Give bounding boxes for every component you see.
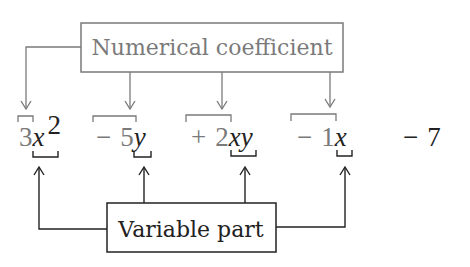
connector-arrow-var4: [276, 168, 345, 227]
term-minus-1x: −1x: [297, 122, 347, 152]
variable-part-box: Variable part: [107, 203, 276, 252]
expression: 3x2 −5y +2xy −1x −7: [19, 110, 441, 152]
connector-arrow-term1: [26, 47, 81, 108]
numerical-coefficient-label: Numerical coefficient: [92, 35, 333, 60]
term-plus-2xy: +2xy: [191, 122, 253, 152]
term-minus-7: −7: [403, 122, 441, 152]
connector-arrow-var1: [39, 168, 107, 229]
coefficient-brackets: [18, 114, 336, 122]
diagram-canvas: Numerical coefficient 3x2 −5y +2xy: [0, 0, 470, 267]
numerical-coefficient-box: Numerical coefficient: [81, 23, 343, 72]
term-minus-5y: −5y: [96, 122, 146, 152]
variable-part-label: Variable part: [117, 217, 264, 242]
